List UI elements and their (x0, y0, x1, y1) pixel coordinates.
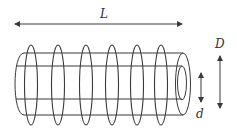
coil-turn-6 (155, 45, 168, 125)
outer-diameter-dimension: D (214, 37, 225, 108)
tube-body (15, 53, 183, 115)
coil-turn-4 (106, 45, 119, 125)
length-label: L (99, 7, 108, 21)
tube-right-end (176, 53, 191, 115)
coil-turn-3 (80, 45, 93, 125)
outer-diameter-label: D (214, 37, 225, 51)
coil-turn-2 (52, 45, 65, 125)
coil-turn-1 (25, 45, 38, 125)
coil-windings (25, 45, 168, 125)
inner-diameter-dimension: d (196, 73, 204, 121)
tube-left-end (15, 53, 24, 115)
inner-diameter-label: d (196, 107, 204, 121)
coil-turn-5 (131, 45, 144, 125)
tube-end-inner (178, 66, 187, 100)
solenoid-diagram: L d D (0, 0, 237, 139)
length-dimension: L (15, 7, 182, 24)
